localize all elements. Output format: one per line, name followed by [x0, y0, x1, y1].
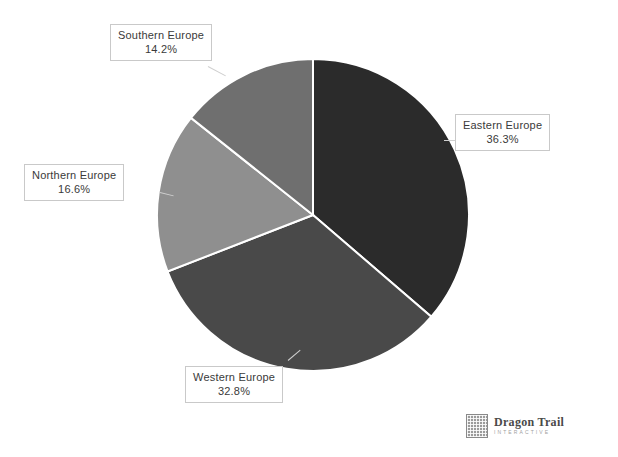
pie-svg — [156, 58, 470, 372]
pie-chart-plot-area — [156, 58, 470, 372]
brand-logo: Dragon Trail INTERACTIVE — [466, 414, 564, 438]
data-label-southern-europe: Southern Europe 14.2% — [110, 24, 212, 61]
brand-name: Dragon Trail — [494, 416, 564, 429]
data-label-eastern-europe-value: 36.3% — [463, 132, 542, 146]
data-label-western-europe-value: 32.8% — [193, 384, 275, 398]
data-label-southern-europe-name: Southern Europe — [118, 28, 204, 42]
dragon-trail-mark-icon — [466, 414, 488, 438]
data-label-northern-europe-name: Northern Europe — [32, 168, 116, 182]
data-label-northern-europe-value: 16.6% — [32, 182, 116, 196]
brand-tagline: INTERACTIVE — [494, 429, 564, 436]
data-label-southern-europe-value: 14.2% — [118, 42, 204, 56]
brand-text: Dragon Trail INTERACTIVE — [494, 416, 564, 436]
pie-slice-group — [157, 59, 469, 371]
data-label-northern-europe: Northern Europe 16.6% — [24, 164, 124, 201]
data-label-eastern-europe-name: Eastern Europe — [463, 118, 542, 132]
data-label-eastern-europe: Eastern Europe 36.3% — [455, 114, 550, 151]
data-label-western-europe: Western Europe 32.8% — [185, 366, 283, 403]
pie-chart-figure: Southern Europe 14.2% Eastern Europe 36.… — [0, 0, 618, 457]
data-label-western-europe-name: Western Europe — [193, 370, 275, 384]
